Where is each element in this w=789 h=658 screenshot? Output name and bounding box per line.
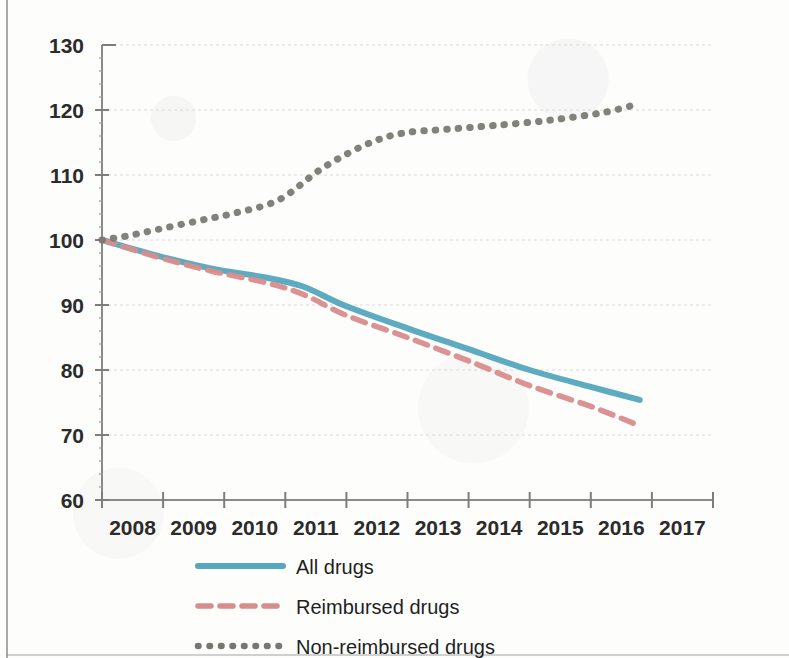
series-line-reimbursed-drugs — [102, 240, 634, 423]
x-tick-label: 2009 — [170, 516, 217, 539]
x-tick-label: 2013 — [415, 516, 462, 539]
series-line-non-reimbursed-drugs — [102, 104, 640, 241]
x-tick-label: 2010 — [231, 516, 278, 539]
x-axis-tick-labels: 2008200920102011201220132014201520162017 — [109, 516, 706, 539]
y-tick-label: 100 — [49, 229, 84, 252]
chart-legend: All drugsReimbursed drugsNon-reimbursed … — [198, 556, 495, 658]
legend-label-non-reimbursed-drugs: Non-reimbursed drugs — [296, 636, 495, 658]
data-series-group — [102, 104, 640, 424]
y-axis-tick-labels: 13012011010090807060 — [49, 34, 84, 512]
y-tick-label: 110 — [50, 164, 84, 187]
line-chart: 13012011010090807060 2008200920102011201… — [0, 0, 789, 658]
x-tick-label: 2017 — [659, 516, 706, 539]
y-tick-label: 60 — [61, 489, 84, 512]
x-tick-label: 2011 — [293, 516, 339, 539]
axes — [95, 45, 713, 508]
x-tick-label: 2014 — [476, 516, 523, 539]
y-tick-label: 90 — [61, 294, 84, 317]
x-tick-label: 2012 — [354, 516, 401, 539]
y-tick-label: 70 — [61, 424, 84, 447]
x-tick-label: 2015 — [537, 516, 584, 539]
x-tick-label: 2016 — [598, 516, 645, 539]
legend-label-all-drugs: All drugs — [296, 556, 374, 578]
y-tick-label: 80 — [61, 359, 84, 382]
legend-label-reimbursed-drugs: Reimbursed drugs — [296, 596, 459, 618]
y-tick-label: 130 — [49, 34, 84, 57]
y-tick-label: 120 — [49, 99, 84, 122]
x-tick-label: 2008 — [109, 516, 156, 539]
series-line-all-drugs — [102, 240, 640, 400]
gridlines — [102, 45, 713, 435]
chart-figure: 13012011010090807060 2008200920102011201… — [0, 0, 789, 658]
